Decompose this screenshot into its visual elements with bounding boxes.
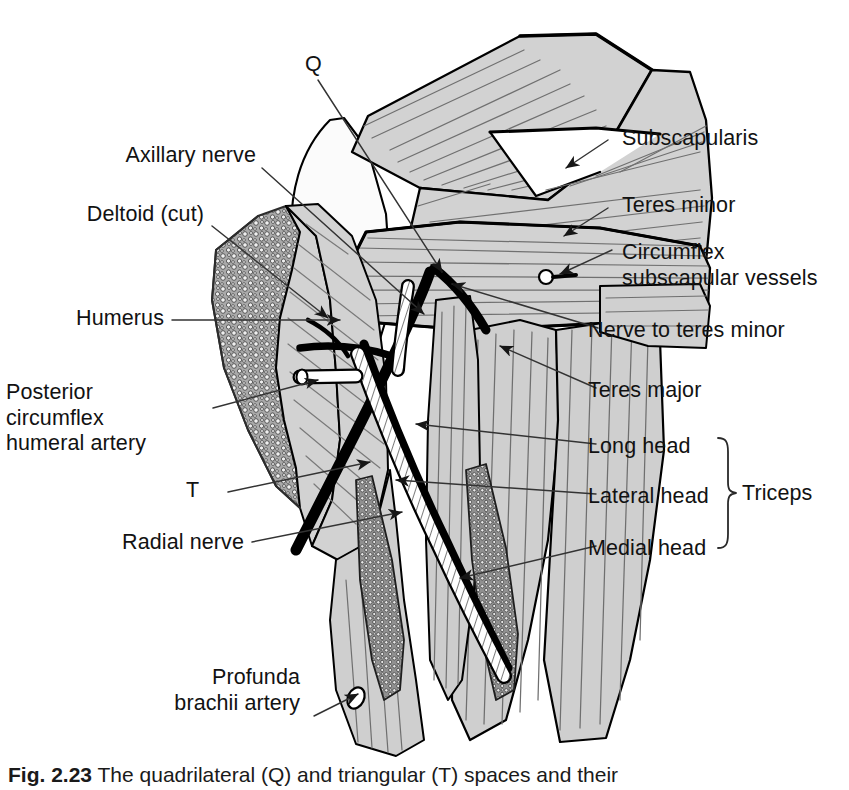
label-subscapularis: Subscapularis: [622, 126, 758, 152]
caption-body: The quadrilateral (Q) and triangular (T)…: [98, 763, 619, 786]
label-line-3: humeral artery: [6, 431, 206, 457]
label-medial-head: Medial head: [588, 536, 706, 562]
label-teres-minor: Teres minor: [622, 193, 735, 219]
label-line-2: subscapular vessels: [622, 266, 818, 292]
label-profunda-brachii-artery: Profunda brachii artery: [6, 665, 300, 716]
label-nerve-to-teres-minor: Nerve to teres minor: [588, 318, 785, 344]
label-circumflex-subscapular-vessels: Circumflex subscapular vessels: [622, 240, 818, 291]
label-line-1: Circumflex: [622, 240, 818, 266]
label-posterior-circumflex-humeral-artery: Posterior circumflex humeral artery: [6, 380, 206, 457]
label-teres-major: Teres major: [588, 378, 701, 404]
caption-number: Fig. 2.23: [8, 763, 92, 786]
label-axillary-nerve: Axillary nerve: [6, 143, 256, 169]
label-triceps: Triceps: [742, 481, 812, 507]
label-line-1: Posterior: [6, 380, 206, 406]
label-line-2: brachii artery: [6, 691, 300, 717]
label-line-2: circumflex: [6, 406, 206, 432]
label-lateral-head: Lateral head: [588, 484, 709, 510]
label-long-head: Long head: [588, 434, 691, 460]
label-humerus: Humerus: [6, 306, 164, 332]
figure-root: Q T Axillary nerve Deltoid (cut) Humerus…: [0, 0, 849, 790]
marker-t: T: [186, 478, 199, 503]
label-deltoid-cut: Deltoid (cut): [6, 202, 204, 228]
label-line-1: Profunda: [6, 665, 300, 691]
marker-q: Q: [305, 52, 322, 77]
label-radial-nerve: Radial nerve: [6, 530, 244, 556]
figure-caption: Fig. 2.23 The quadrilateral (Q) and tria…: [8, 762, 843, 788]
